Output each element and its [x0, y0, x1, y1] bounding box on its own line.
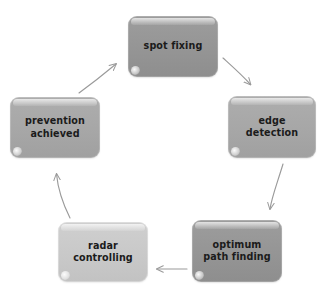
node-edge-detection[interactable]: edge detection	[228, 96, 316, 158]
arrow-prevention-to-spot-fixing	[79, 64, 116, 93]
node-label: radar controlling	[69, 240, 137, 265]
node-label: prevention achieved	[21, 115, 89, 140]
node-radar-controlling[interactable]: radar controlling	[58, 222, 148, 282]
node-label-line1: optimum	[213, 239, 262, 250]
node-label-line1: radar	[88, 240, 118, 251]
arrow-edge-detection-to-optimum-path	[270, 164, 283, 209]
diagram-canvas: spot fixing edge detection optimum path …	[0, 0, 326, 295]
node-label: edge detection	[242, 115, 302, 140]
node-label-line2: detection	[246, 127, 298, 138]
node-label: optimum path finding	[199, 239, 274, 264]
node-label-line2: controlling	[73, 252, 133, 263]
node-label: spot fixing	[140, 40, 207, 52]
arrow-spot-fixing-to-edge-detection	[223, 58, 251, 85]
node-spot-fixing[interactable]: spot fixing	[128, 16, 218, 77]
node-label-line2: achieved	[30, 128, 79, 139]
node-prevention-achieved[interactable]: prevention achieved	[10, 97, 100, 158]
arrow-radar-controlling-to-prevention	[57, 174, 71, 218]
node-label-line1: edge	[258, 115, 285, 126]
node-optimum-path-finding[interactable]: optimum path finding	[192, 220, 282, 282]
node-label-line2: path finding	[203, 251, 270, 262]
node-label-line1: prevention	[25, 115, 85, 126]
